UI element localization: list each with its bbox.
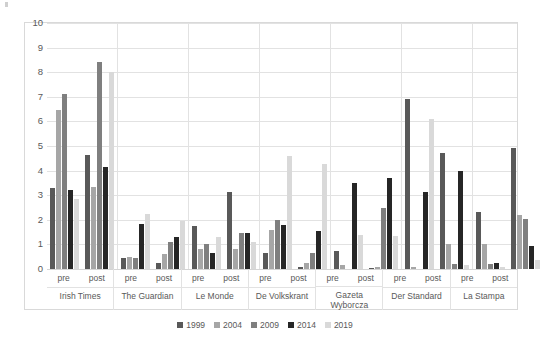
bar-2004 [56,110,61,269]
y-axis-tick-label: 7 [38,92,43,102]
period-group-post [153,23,188,269]
period-label-pre: pre [182,269,215,287]
period-group-post [366,23,401,269]
category-label: Gazeta Wyborcza [316,287,382,310]
period-label-pre: pre [451,269,484,287]
legend-swatch-icon [214,322,220,328]
bar-2014 [174,237,179,269]
bar-2004 [446,244,451,269]
period-label-post: post [282,269,315,287]
legend-item-2014: 2014 [288,320,316,330]
bar-1999 [50,188,55,269]
bar-2014 [210,253,215,269]
legend-label: 1999 [186,320,205,330]
bar-2009 [168,242,173,269]
category-axis-group: prepostDer Standard [383,269,450,310]
bar-2009 [204,244,209,269]
bar-2004 [198,249,203,269]
bar-2019 [251,242,256,269]
bar-1999 [511,148,516,269]
legend-item-1999: 1999 [177,320,205,330]
legend-item-2019: 2019 [325,320,353,330]
legend-label: 2004 [223,320,242,330]
bar-group-gazeta-wyborcza [331,23,402,269]
bar-group-le-monde [189,23,260,269]
bar-2019 [180,221,185,269]
category-axis-group: prepostDe Volkskrant [249,269,316,310]
period-label-pre: pre [383,269,416,287]
bar-group-irish-times [47,23,118,269]
legend-label: 2014 [297,320,316,330]
legend-swatch-icon [288,322,294,328]
category-axis-group: prepostLa Stampa [451,269,517,310]
bar-2004 [269,230,274,269]
period-group-pre [47,23,82,269]
category-label: La Stampa [451,288,517,310]
legend-swatch-icon [251,322,257,328]
period-group-pre [473,23,508,269]
bar-2019 [535,260,540,269]
bar-1999 [227,192,232,269]
legend-swatch-icon [325,322,331,328]
legend-item-2004: 2004 [214,320,242,330]
period-label-post: post [80,269,113,287]
period-label-post: post [349,269,382,286]
bar-2009 [62,94,67,269]
bar-2009 [523,219,528,269]
period-group-pre [189,23,224,269]
y-axis-tick-label: 1 [38,239,43,249]
bar-2019 [322,164,327,269]
period-labels: prepost [114,269,180,288]
bar-1999 [85,155,90,269]
bar-2019 [216,237,221,269]
period-label-post: post [484,269,517,287]
legend-label: 2009 [260,320,279,330]
bar-2014 [423,192,428,269]
period-group-pre [260,23,295,269]
bar-2009 [97,62,102,269]
bar-2014 [387,178,392,269]
category-axis: prepostIrish TimesprepostThe Guardianpre… [47,269,517,310]
period-label-post: post [147,269,180,287]
y-axis-tick-label: 5 [38,141,43,151]
bar-group-the-guardian [118,23,189,269]
bar-2004 [91,187,96,269]
y-axis-tick-label: 10 [32,18,43,28]
chart-legend: 19992004200920142019 [0,320,530,330]
bar-1999 [476,212,481,269]
period-label-pre: pre [47,269,80,287]
period-labels: prepost [451,269,517,288]
bar-2004 [127,257,132,269]
period-labels: prepost [47,269,113,288]
bar-2014 [458,171,463,269]
period-label-pre: pre [114,269,147,287]
legend-swatch-icon [177,322,183,328]
period-group-post [82,23,117,269]
period-group-pre [331,23,366,269]
bar-2004 [233,249,238,269]
category-label: The Guardian [114,288,180,310]
period-group-post [508,23,543,269]
period-group-post [224,23,259,269]
category-label: De Volkskrant [249,288,315,310]
bar-2009 [275,220,280,269]
bar-1999 [192,226,197,269]
bar-2019 [287,156,292,269]
category-axis-group: prepostThe Guardian [114,269,181,310]
bar-2004 [482,244,487,269]
bar-2014 [352,183,357,269]
bar-1999 [334,251,339,269]
bar-2009 [239,233,244,269]
category-axis-group: prepostGazeta Wyborcza [316,269,383,310]
period-group-pre [118,23,153,269]
bar-2014 [103,167,108,269]
period-labels: prepost [249,269,315,288]
bar-1999 [440,153,445,269]
period-label-post: post [215,269,248,287]
bar-group-der-standard [402,23,473,269]
y-axis-tick-label: 9 [38,43,43,53]
legend-item-2009: 2009 [251,320,279,330]
bar-1999 [405,99,410,269]
category-label: Irish Times [47,288,113,310]
bar-2004 [162,254,167,269]
